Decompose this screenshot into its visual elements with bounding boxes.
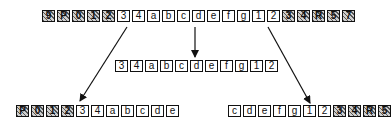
hatched-sequence-cell: 3 bbox=[333, 105, 346, 117]
sequence-cell: c bbox=[175, 60, 188, 72]
cell-label: c bbox=[179, 61, 184, 71]
cell-label: b bbox=[166, 11, 172, 21]
sequence-cell: g bbox=[288, 105, 301, 117]
cell-label: b bbox=[164, 61, 170, 71]
cell-label: 0 bbox=[76, 11, 82, 21]
sequence-cell: d bbox=[243, 105, 256, 117]
cell-label: e bbox=[209, 61, 215, 71]
sequence-cell: 3 bbox=[76, 105, 89, 117]
sequence-cell: d bbox=[192, 10, 205, 22]
hatched-sequence-cell: 3 bbox=[282, 10, 295, 22]
cell-label: e bbox=[170, 106, 176, 116]
cell-label: g bbox=[292, 106, 298, 116]
cell-label: f bbox=[278, 106, 281, 116]
sequence-cell: c bbox=[177, 10, 190, 22]
cell-label: 1 bbox=[307, 106, 313, 116]
hatched-sequence-cell: R bbox=[312, 10, 325, 22]
cell-label: 3 bbox=[337, 106, 343, 116]
cell-label: c bbox=[140, 106, 145, 116]
cell-label: 0 bbox=[35, 106, 41, 116]
cell-label: 4 bbox=[136, 11, 142, 21]
hatched-sequence-cell: 4 bbox=[297, 10, 310, 22]
sequence-cell: 1 bbox=[252, 10, 265, 22]
cell-label: R bbox=[366, 106, 373, 116]
sequence-cell: e bbox=[207, 10, 220, 22]
hatched-sequence-cell: 9 bbox=[42, 10, 55, 22]
cell-label: d bbox=[155, 106, 161, 116]
cell-label: a bbox=[151, 11, 157, 21]
cell-label: 3 bbox=[119, 61, 125, 71]
sequence-cell: 1 bbox=[250, 60, 263, 72]
cell-label: 7 bbox=[346, 11, 352, 21]
cell-label: 1 bbox=[254, 61, 260, 71]
hatched-sequence-cell: 1 bbox=[46, 105, 59, 117]
cell-label: d bbox=[196, 11, 202, 21]
hatched-sequence-cell: R bbox=[363, 105, 376, 117]
sequence-cell: 2 bbox=[265, 60, 278, 72]
sequence-cell: 1 bbox=[303, 105, 316, 117]
middle-sequence-row: 34abcdefg12 bbox=[115, 60, 278, 72]
source-sequence-row: 9P01234abcdefg1234R57 bbox=[42, 10, 355, 22]
sequence-cell: b bbox=[160, 60, 173, 72]
cell-label: 2 bbox=[271, 11, 277, 21]
sequence-cell: 4 bbox=[132, 10, 145, 22]
cell-label: 5 bbox=[382, 106, 388, 116]
sequence-cell: f bbox=[273, 105, 286, 117]
sequence-cell: a bbox=[106, 105, 119, 117]
cell-label: g bbox=[241, 11, 247, 21]
cell-label: 4 bbox=[301, 11, 307, 21]
cell-label: 1 bbox=[50, 106, 56, 116]
cell-label: 3 bbox=[121, 11, 127, 21]
cell-label: f bbox=[227, 11, 230, 21]
cell-label: P bbox=[60, 11, 67, 21]
cell-label: a bbox=[110, 106, 116, 116]
cell-label: c bbox=[181, 11, 186, 21]
cell-label: 1 bbox=[256, 11, 262, 21]
cell-label: 9 bbox=[46, 11, 52, 21]
sequence-cell: 2 bbox=[318, 105, 331, 117]
cell-label: 2 bbox=[106, 11, 112, 21]
sequence-cell: 4 bbox=[130, 60, 143, 72]
sequence-cell: 3 bbox=[115, 60, 128, 72]
cell-label: 2 bbox=[269, 61, 275, 71]
hatched-sequence-cell: 5 bbox=[327, 10, 340, 22]
sequence-cell: 3 bbox=[117, 10, 130, 22]
cell-label: 3 bbox=[80, 106, 86, 116]
sequence-cell: e bbox=[258, 105, 271, 117]
hatched-sequence-cell: 2 bbox=[61, 105, 74, 117]
sequence-cell: d bbox=[190, 60, 203, 72]
sequence-cell: e bbox=[205, 60, 218, 72]
sequence-cell: a bbox=[147, 10, 160, 22]
hatched-sequence-cell: 5 bbox=[378, 105, 391, 117]
sequence-cell: f bbox=[222, 10, 235, 22]
cell-label: P bbox=[19, 106, 26, 116]
sequence-cell: d bbox=[151, 105, 164, 117]
cell-label: R bbox=[315, 11, 322, 21]
cell-label: a bbox=[149, 61, 155, 71]
cell-label: 2 bbox=[322, 106, 328, 116]
hatched-sequence-cell: 2 bbox=[102, 10, 115, 22]
sequence-cell: b bbox=[121, 105, 134, 117]
cell-label: 2 bbox=[65, 106, 71, 116]
cell-label: g bbox=[239, 61, 245, 71]
sequence-cell: e bbox=[166, 105, 179, 117]
sequence-cell: 4 bbox=[91, 105, 104, 117]
cell-label: 4 bbox=[352, 106, 358, 116]
cell-label: f bbox=[225, 61, 228, 71]
hatched-sequence-cell: 1 bbox=[87, 10, 100, 22]
sequence-cell: b bbox=[162, 10, 175, 22]
hatched-sequence-cell: 0 bbox=[72, 10, 85, 22]
cell-label: 4 bbox=[134, 61, 140, 71]
hatched-sequence-cell: P bbox=[57, 10, 70, 22]
cell-label: b bbox=[125, 106, 131, 116]
hatched-sequence-cell: 0 bbox=[31, 105, 44, 117]
sequence-cell: c bbox=[136, 105, 149, 117]
cell-label: d bbox=[247, 106, 253, 116]
hatched-sequence-cell: P bbox=[16, 105, 29, 117]
sequence-cell: c bbox=[228, 105, 241, 117]
right-sequence-row: cdefg1234R5 bbox=[228, 105, 391, 117]
sequence-cell: f bbox=[220, 60, 233, 72]
cell-label: e bbox=[211, 11, 217, 21]
sequence-cell: a bbox=[145, 60, 158, 72]
cell-label: 5 bbox=[331, 11, 337, 21]
